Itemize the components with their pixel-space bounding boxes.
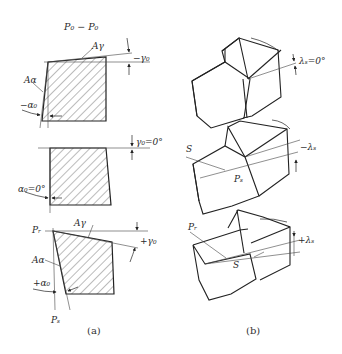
cutting-edge-label: S: [233, 261, 239, 270]
tool-lambda-negative: [186, 120, 300, 214]
tool-cross-section: [50, 148, 111, 205]
flank-face-label: Aα: [24, 76, 37, 85]
panel-a-caption: (a): [87, 326, 101, 336]
cutting-plane-label: Pₛ: [234, 175, 243, 184]
section-zero-angles: [25, 135, 150, 213]
cutting-edge-label: S: [186, 145, 192, 154]
rake-angle-label: −γ₀: [133, 54, 150, 63]
tool-cross-section: [53, 231, 114, 294]
base-plane-label: Pᵣ: [188, 223, 197, 232]
clearance-angle-label: α₀=0°: [18, 185, 45, 194]
section-negative-angles: [22, 38, 150, 128]
clearance-angle-label: −α₀: [20, 101, 37, 110]
tool-cross-section: [42, 57, 106, 121]
rake-face-label: Aγ: [74, 219, 86, 228]
rake-face-label: Aγ: [92, 42, 104, 51]
base-plane-label: Pᵣ: [32, 226, 41, 235]
panel-b-caption: (b): [246, 326, 260, 336]
tool-angle-diagram: [0, 0, 342, 354]
rake-angle-label: γ₀=0°: [136, 138, 163, 147]
tool-lambda-zero: [192, 38, 296, 128]
rake-angle-label: +γ₀: [140, 237, 157, 246]
clearance-angle-label: +α₀: [33, 279, 50, 288]
cutting-plane-label: Pₛ: [51, 316, 60, 325]
section-positive-angles: [33, 222, 148, 310]
inclination-angle-label: +λₛ: [298, 236, 314, 245]
flank-face-label: Aα: [32, 256, 45, 265]
inclination-angle-label: λₛ=0°: [299, 57, 326, 66]
inclination-angle-label: −λₛ: [300, 143, 316, 152]
tool-lambda-positive: [190, 210, 300, 300]
panel-a-title: P₀ − P₀: [64, 22, 98, 32]
